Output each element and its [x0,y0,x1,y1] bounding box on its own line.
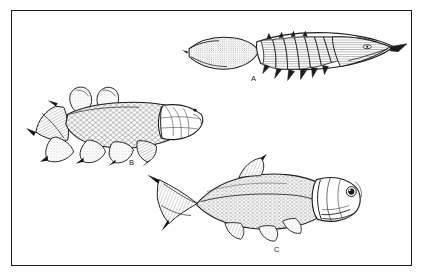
fish-b-lower-caudal-lobe [40,137,74,162]
panel-label-a: A [251,75,256,83]
fish-a-armored-fish [182,31,407,81]
fish-c-anal-fin [225,223,244,240]
fish-c-caudal-fin [147,175,197,232]
fish-c-ray-finned-fish [147,154,361,241]
plate-border-frame: A B C [11,10,412,266]
fish-b-lobe-finned-fish [26,87,203,167]
fish-b-anal-fin [137,141,157,167]
panel-label-c: C [274,246,280,254]
fish-c-body [197,174,326,229]
fish-a-tail [182,37,259,69]
fish-c-head [312,178,361,222]
fish-a-head [332,37,407,67]
figure-plate: A B C [0,0,427,280]
panel-label-b: B [129,159,134,167]
fish-b-eye [194,109,197,112]
fish-a-eye [366,46,368,48]
fish-b-head [158,105,202,140]
fish-illustrations-canvas [12,11,411,265]
fish-c-pelvic-fin [259,226,278,242]
fish-c-eye [348,189,354,195]
fish-b-caudal-fin [26,100,69,140]
